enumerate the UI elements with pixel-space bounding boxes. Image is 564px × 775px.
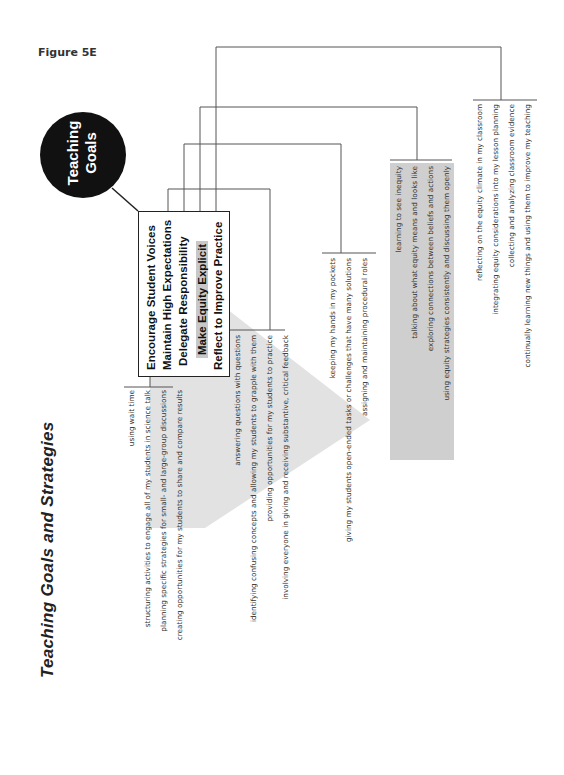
strategy-group-reflect-to-improve-practice: reflecting on the equity climate in my c…: [472, 104, 536, 432]
strategy-item: answering questions with questions: [230, 335, 246, 680]
strategy-item: collecting and analyzing classroom evide…: [504, 104, 520, 432]
strategy-group-encourage-student-voices: using wait time structuring activities t…: [124, 390, 188, 710]
goal-delegate-responsibility: Delegate Responsibility: [175, 220, 191, 370]
strategy-group-maintain-high-expectations: answering questions with questions ident…: [230, 335, 294, 680]
strategy-item: reflecting on the equity climate in my c…: [472, 104, 488, 432]
goal-reflect-to-improve-practice: Reflect to Improve Practice: [210, 220, 226, 370]
strategy-item: exploring connections between beliefs an…: [423, 166, 439, 456]
goal-maintain-high-expectations: Maintain High Expectations: [159, 220, 175, 370]
strategy-item: assigning and maintaining procedural rol…: [357, 258, 373, 600]
strategy-item: giving my students open-ended tasks or c…: [341, 258, 357, 600]
strategy-item: providing opportunities for my students …: [262, 335, 278, 680]
hub-label-line1: Teaching: [64, 110, 82, 196]
hub-label: Teaching Goals: [64, 110, 100, 196]
strategy-item: keeping my hands in my pockets: [325, 258, 341, 600]
strategy-item: talking about what equity means and look…: [407, 166, 423, 456]
goal-make-equity-explicit: Make Equity Explicit: [196, 241, 208, 358]
strategy-item: identifying confusing concepts and allow…: [246, 335, 262, 680]
hub-label-line2: Goals: [82, 110, 100, 196]
goal-encourage-student-voices: Encourage Student Voices: [143, 220, 159, 370]
strategy-item: structuring activities to engage all of …: [140, 390, 156, 710]
strategy-item: using equity strategies consistently and…: [439, 166, 455, 456]
strategy-item: continually learning new things and usin…: [520, 104, 536, 432]
goals-list: Encourage Student Voices Maintain High E…: [143, 220, 226, 370]
strategy-group-delegate-responsibility: keeping my hands in my pockets giving my…: [325, 258, 373, 600]
strategy-item: using wait time: [124, 390, 140, 710]
strategy-group-make-equity-explicit: learning to see inequity talking about w…: [391, 166, 455, 456]
strategy-item: learning to see inequity: [391, 166, 407, 456]
strategy-item: creating opportunities for my students t…: [172, 390, 188, 710]
strategy-item: involving everyone in giving and receivi…: [278, 335, 294, 680]
strategy-item: planning specific strategies for small- …: [156, 390, 172, 710]
strategy-item: integrating equity considerations into m…: [488, 104, 504, 432]
